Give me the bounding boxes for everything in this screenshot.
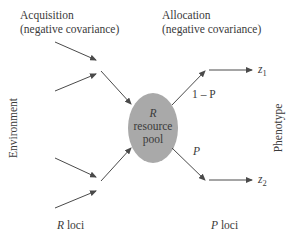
branch-upper-label: 1 – P: [192, 88, 216, 100]
pool-line2: pool: [143, 133, 163, 146]
allocation-subtitle: (negative covariance): [162, 23, 261, 36]
output-z1: z1: [257, 63, 267, 78]
output-z2: z2: [257, 173, 267, 188]
arrow-to-pool-upper: [101, 71, 131, 104]
acquisition-title: Acquisition: [20, 9, 74, 22]
pool-symbol: R: [148, 107, 156, 119]
phenotype-label: Phenotype: [272, 104, 285, 153]
environment-label: Environment: [7, 97, 19, 158]
arrow-to-pool-lower: [101, 148, 131, 181]
allocation-title: Allocation: [162, 9, 211, 21]
arrow-env-lower-1: [55, 158, 96, 177]
arrow-env-lower-2: [55, 191, 96, 208]
resource-allocation-diagram: Acquisition (negative covariance) Alloca…: [0, 0, 294, 243]
pool-line1: resource: [134, 120, 173, 132]
arrow-pool-to-lower: [172, 148, 205, 180]
arrow-env-upper-1: [55, 42, 96, 60]
branch-lower-label: P: [192, 145, 200, 157]
arrow-env-upper-2: [55, 74, 96, 91]
p-loci-label: P loci: [210, 219, 238, 231]
acquisition-subtitle: (negative covariance): [20, 23, 119, 36]
r-loci-label: R loci: [56, 219, 84, 231]
